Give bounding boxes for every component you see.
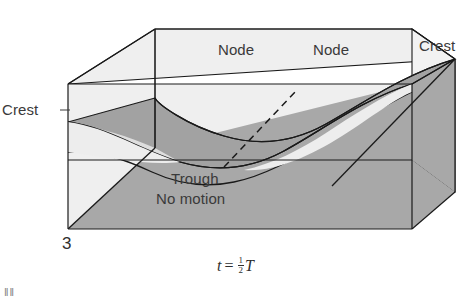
caption-fraction: 12 — [237, 256, 246, 275]
label-crest-left: Crest — [2, 101, 38, 118]
label-no-motion: No motion — [156, 190, 225, 207]
label-node-right: Node — [313, 41, 349, 58]
label-crest-right: Crest — [419, 37, 455, 54]
caption-fraction-denominator: 2 — [238, 266, 245, 275]
label-trough: Trough — [171, 170, 219, 187]
figure-caption: t=12T — [0, 256, 471, 275]
label-node-left: Node — [218, 41, 254, 58]
figure-index-number: 3 — [62, 234, 72, 254]
box-top-face — [68, 29, 455, 84]
caption-equals: = — [222, 257, 237, 274]
standing-wave-figure: Crest Node Node Crest Trough No motion 3… — [0, 0, 471, 297]
caption-variable-t: t — [217, 257, 221, 274]
footer-mark: ‖‖ — [4, 286, 15, 297]
caption-variable-T: T — [245, 257, 254, 274]
